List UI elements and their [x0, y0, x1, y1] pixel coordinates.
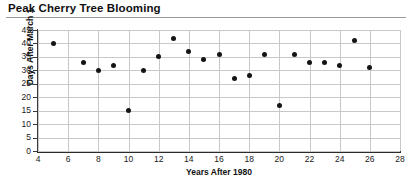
- x-tick-label: 28: [388, 154, 412, 164]
- data-point: [186, 49, 191, 54]
- grid-line-vertical: [310, 30, 311, 151]
- x-tick-label: 26: [358, 154, 382, 164]
- data-point: [141, 68, 146, 73]
- x-tick-label: 14: [177, 154, 201, 164]
- data-point: [171, 36, 176, 41]
- x-tick-label: 16: [207, 154, 231, 164]
- chart-container: Peak Cherry Tree Blooming Days After Mar…: [0, 0, 412, 186]
- data-point: [337, 63, 342, 68]
- y-tick-label: 35: [0, 52, 31, 61]
- y-tick-label: 40: [0, 39, 31, 48]
- data-point: [292, 52, 297, 57]
- data-point: [126, 108, 131, 113]
- x-tick-label: 10: [117, 154, 141, 164]
- plot-area: [38, 30, 400, 151]
- data-point: [96, 68, 101, 73]
- grid-line-vertical: [129, 30, 130, 151]
- data-point: [201, 57, 206, 62]
- y-tick-label: 5: [0, 133, 31, 142]
- grid-line-vertical: [249, 30, 250, 151]
- x-axis-title: Years After 1980: [38, 167, 400, 177]
- grid-line-vertical: [68, 30, 69, 151]
- title-divider: [6, 17, 406, 18]
- grid-line-vertical: [279, 30, 280, 151]
- grid-line-vertical: [38, 30, 39, 151]
- data-point: [217, 52, 222, 57]
- y-tick-label: 45: [0, 26, 31, 35]
- data-point: [111, 63, 116, 68]
- data-point: [51, 41, 56, 46]
- x-tick-label: 20: [267, 154, 291, 164]
- data-point: [232, 76, 237, 81]
- y-tick-label: 20: [0, 93, 31, 102]
- data-point: [277, 103, 282, 108]
- data-point: [81, 60, 86, 65]
- data-point: [247, 73, 252, 78]
- y-tick-label: 30: [0, 66, 31, 75]
- x-tick-label: 4: [26, 154, 50, 164]
- x-tick-label: 12: [147, 154, 171, 164]
- y-tick-label: 25: [0, 79, 31, 88]
- x-tick-label: 6: [56, 154, 80, 164]
- grid-line-vertical: [370, 30, 371, 151]
- data-point: [262, 52, 267, 57]
- grid-line-vertical: [98, 30, 99, 151]
- data-point: [322, 60, 327, 65]
- x-tick-label: 24: [328, 154, 352, 164]
- y-tick-label: 15: [0, 106, 31, 115]
- data-point: [307, 60, 312, 65]
- x-tick-label: 22: [298, 154, 322, 164]
- y-tick-label: 10: [0, 120, 31, 129]
- grid-line-vertical: [340, 30, 341, 151]
- grid-line-vertical: [400, 30, 401, 151]
- grid-line-horizontal: [38, 151, 400, 152]
- data-point: [156, 54, 161, 59]
- x-tick-label: 8: [86, 154, 110, 164]
- grid-line-vertical: [219, 30, 220, 151]
- grid-line-vertical: [159, 30, 160, 151]
- x-tick-label: 18: [237, 154, 261, 164]
